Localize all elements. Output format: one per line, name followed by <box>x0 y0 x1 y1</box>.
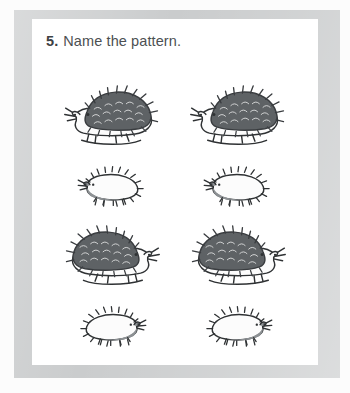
hedgehog-icon <box>184 225 292 291</box>
hedgehog-icon <box>199 302 277 350</box>
question-line: 5.Name the pattern. <box>46 33 181 49</box>
hedgehog-small-right <box>49 297 175 355</box>
hedgehog-small-left <box>49 157 175 215</box>
hedgehog-large-right <box>175 219 301 297</box>
hedgehog-large-left <box>49 79 175 157</box>
pattern-row <box>32 79 318 157</box>
hedgehog-icon <box>199 162 277 210</box>
pattern-row <box>32 157 318 215</box>
hedgehog-icon <box>73 302 151 350</box>
hedgehog-large-right <box>49 219 175 297</box>
hedgehog-icon <box>184 85 292 151</box>
hedgehog-icon <box>58 225 166 291</box>
hedgehog-small-right <box>175 297 301 355</box>
hedgehog-small-left <box>175 157 301 215</box>
hedgehog-icon <box>58 85 166 151</box>
question-number: 5. <box>46 33 58 49</box>
scan-frame: 5.Name the pattern. <box>0 0 350 393</box>
pattern-grid <box>32 79 318 359</box>
pattern-row <box>32 219 318 297</box>
hedgehog-icon <box>73 162 151 210</box>
pattern-row <box>32 297 318 355</box>
question-text: Name the pattern. <box>63 33 181 49</box>
hedgehog-large-left <box>175 79 301 157</box>
worksheet-page: 5.Name the pattern. <box>32 19 318 365</box>
